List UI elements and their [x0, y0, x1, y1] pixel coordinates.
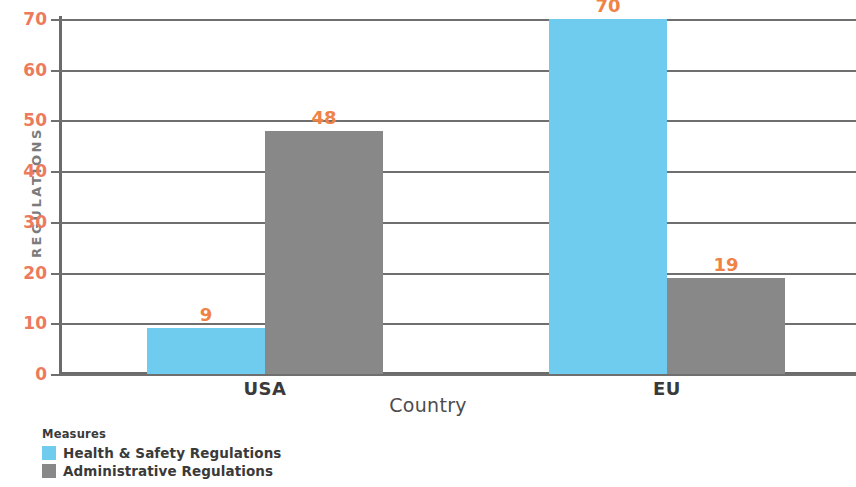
y-tick-mark: [51, 120, 62, 122]
y-tick-label: 10: [23, 315, 47, 332]
bar[interactable]: 70: [549, 19, 667, 374]
y-tick-label: 30: [23, 213, 47, 230]
legend-title: Measures: [42, 427, 282, 441]
legend-swatch: [42, 464, 56, 478]
legend-item[interactable]: Administrative Regulations: [42, 463, 282, 479]
legend-swatch: [42, 446, 56, 460]
y-tick-mark: [51, 374, 62, 376]
y-tick-label: 40: [23, 163, 47, 180]
x-axis-title: Country: [0, 394, 856, 416]
y-tick-label: 0: [35, 366, 47, 383]
legend-items: Health & Safety RegulationsAdministrativ…: [42, 445, 282, 479]
y-tick-mark: [51, 19, 62, 21]
y-tick-label: 60: [23, 61, 47, 78]
bar[interactable]: 19: [667, 278, 785, 374]
y-tick-label: 50: [23, 112, 47, 129]
bar[interactable]: 9: [147, 328, 265, 374]
legend: Measures Health & Safety RegulationsAdmi…: [42, 427, 282, 481]
legend-item-label: Health & Safety Regulations: [63, 445, 282, 461]
gridline: [59, 19, 856, 21]
bar-value-label: 9: [200, 306, 213, 324]
gridline: [59, 70, 856, 72]
y-tick-mark: [51, 222, 62, 224]
gridline: [59, 171, 856, 173]
y-tick-mark: [51, 171, 62, 173]
legend-item[interactable]: Health & Safety Regulations: [42, 445, 282, 461]
bar-value-label: 19: [713, 256, 738, 274]
y-tick-label: 70: [23, 11, 47, 28]
y-tick-mark: [51, 70, 62, 72]
plot-area: 706050403020100 9487019: [59, 19, 856, 374]
bar[interactable]: 48: [265, 131, 383, 374]
legend-item-label: Administrative Regulations: [63, 463, 273, 479]
y-tick-label: 20: [23, 264, 47, 281]
y-tick-mark: [51, 273, 62, 275]
gridline: [59, 120, 856, 122]
gridline: [59, 222, 856, 224]
gridline: [59, 374, 856, 376]
bar-value-label: 70: [595, 0, 620, 15]
y-tick-mark: [51, 323, 62, 325]
bar-chart: REGULATIONS 706050403020100 9487019 USAE…: [0, 0, 856, 487]
bar-value-label: 48: [311, 109, 336, 127]
